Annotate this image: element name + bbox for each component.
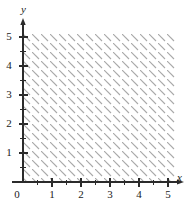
x-tick-label-2: 2 xyxy=(74,189,88,200)
x-tick-label-4: 4 xyxy=(132,189,146,200)
x-tick-label-3: 3 xyxy=(103,189,117,200)
axes-group xyxy=(0,0,188,208)
y-axis-arrowhead xyxy=(20,18,25,25)
x-tick-label-1: 1 xyxy=(45,189,59,200)
x-tick-label-5: 5 xyxy=(161,189,175,200)
y-tick-label-4: 4 xyxy=(2,60,16,71)
coordinate-plane-figure: 0 1 2 3 4 5 1 2 3 4 5 y x xyxy=(0,0,188,208)
y-tick-label-5: 5 xyxy=(2,31,16,42)
x-axis-label: x xyxy=(177,172,182,183)
y-tick-label-2: 2 xyxy=(2,118,16,129)
x-tick-label-0: 0 xyxy=(10,189,24,200)
y-tick-label-3: 3 xyxy=(2,89,16,100)
y-tick-label-1: 1 xyxy=(2,147,16,158)
y-axis-label: y xyxy=(21,4,26,15)
